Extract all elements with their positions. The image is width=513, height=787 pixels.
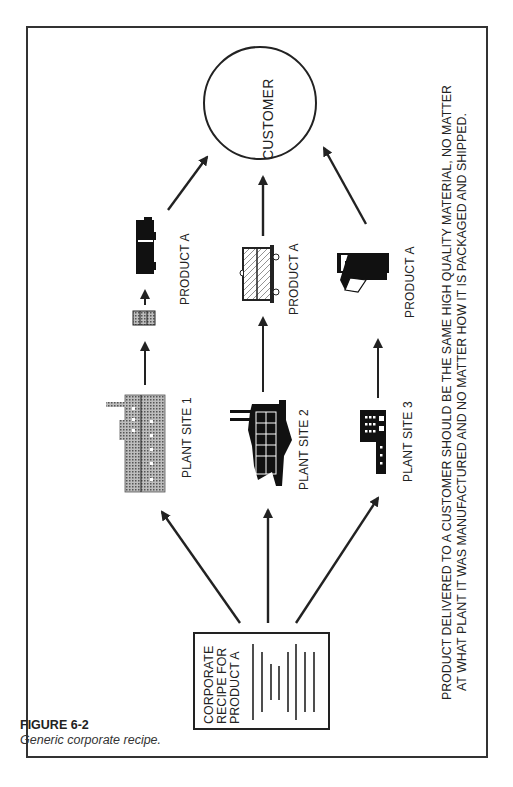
plant-site-3-label: PLANT SITE 3 [401,401,415,482]
product-label-1: PRODUCT A [178,233,192,305]
figure-number: FIGURE 6-2 [20,718,161,732]
product-label-3: PRODUCT A [403,246,417,318]
statement-line-1: PRODUCT DELIVERED TO A CUSTOMER SHOULD B… [440,85,455,700]
arrows-plant-to-product [145,291,378,398]
bag-package-icon [338,254,388,292]
corporate-recipe-document: CORPORATE RECIPE FOR PRODUCT A [193,632,330,730]
truck-icon [136,217,156,274]
statement-line-2: AT WHAT PLANT IT WAS MANUFACTURED AND NO… [455,85,470,700]
recipe-text-lines-icon [195,634,332,732]
factory-icon [106,395,165,492]
plant-site-2-label: PLANT SITE 2 [297,409,311,490]
railcar-icon [240,245,279,303]
quality-statement: PRODUCT DELIVERED TO A CUSTOMER SHOULD B… [440,85,469,700]
arrows-recipe-to-plant [162,498,378,623]
product-label-2: PRODUCT A [287,243,301,315]
plant-site-1-label: PLANT SITE 1 [180,397,194,478]
figure-caption: FIGURE 6-2 Generic corporate recipe. [20,718,161,747]
figure-description: Generic corporate recipe. [20,733,161,747]
refinery-icon [230,400,292,486]
arrows-to-customer [168,148,366,236]
customer-label: CUSTOMER [260,79,276,160]
package-small-icon [133,311,155,325]
office-building-icon [360,410,386,474]
